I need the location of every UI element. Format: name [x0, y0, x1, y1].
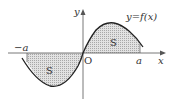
left-bound-label: −a: [14, 42, 28, 53]
region-label-left: S: [46, 65, 53, 76]
origin-label: O: [84, 55, 92, 66]
shaded-region-left: [27, 53, 83, 86]
right-bound-label: a: [136, 55, 142, 66]
function-diagram: y=f(x) y x O −a a S S: [0, 0, 173, 101]
x-axis-label: x: [158, 55, 164, 66]
curve-label: y=f(x): [125, 11, 157, 22]
region-label-right: S: [110, 37, 117, 48]
y-axis-arrow-icon: [81, 9, 86, 15]
y-axis-label: y: [73, 6, 80, 17]
